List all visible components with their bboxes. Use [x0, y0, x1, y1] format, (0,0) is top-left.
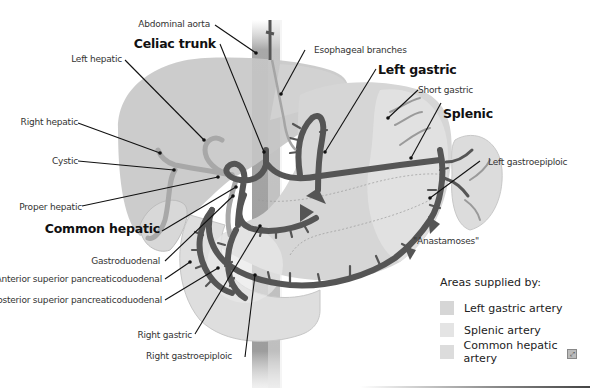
label-gastroduodenal: Gastroduodenal: [91, 256, 160, 267]
label-left-gastric: Left gastric: [378, 63, 456, 77]
label-right-gastric: Right gastric: [137, 330, 192, 341]
label-anastamoses: "Anastamoses": [413, 236, 479, 247]
legend-swatch: [440, 345, 454, 359]
label-proper-hepatic: Proper hepatic: [19, 202, 82, 213]
label-anterior-superior-pancreaticoduodenal: Anterior superior pancreaticoduodenal: [0, 274, 162, 285]
expand-icon[interactable]: ⤢: [567, 349, 577, 359]
label-short-gastric: Short gastric: [418, 85, 473, 96]
label-common-hepatic: Common hepatic: [45, 222, 160, 236]
legend-item-left-gastric: Left gastric artery: [440, 297, 590, 319]
legend-label: Left gastric artery: [464, 302, 562, 315]
label-right-gastroepiploic: Right gastroepiploic: [146, 351, 232, 362]
legend-swatch: [440, 301, 454, 315]
label-left-hepatic: Left hepatic: [71, 54, 122, 65]
label-abdominal-aorta: Abdominal aorta: [138, 19, 210, 30]
label-splenic: Splenic: [443, 107, 493, 121]
label-celiac-trunk: Celiac trunk: [134, 37, 216, 51]
label-posterior-superior-pancreaticoduodenal: Posterior superior pancreaticoduodenal: [0, 295, 162, 306]
label-cystic: Cystic: [52, 156, 78, 167]
legend-label: Splenic artery: [464, 324, 541, 337]
spleen-shape: [452, 135, 503, 230]
legend-item-splenic: Splenic artery: [440, 319, 590, 341]
legend-title: Areas supplied by:: [440, 276, 590, 289]
label-left-gastroepiploic: Left gastroepiploic: [488, 157, 567, 168]
label-right-hepatic: Right hepatic: [21, 117, 78, 128]
legend-swatch: [440, 323, 454, 337]
label-esophageal-branches: Esophageal branches: [314, 45, 407, 56]
